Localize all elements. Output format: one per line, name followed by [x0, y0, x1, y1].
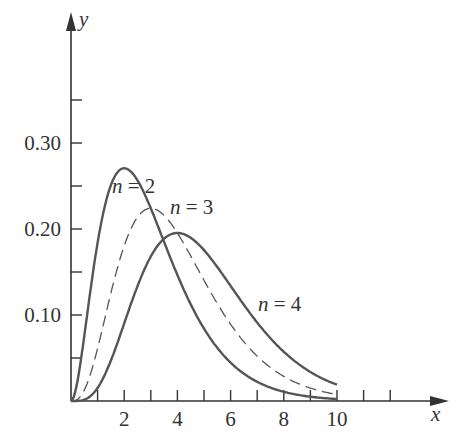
x-tick-label: 10: [327, 407, 348, 431]
y-axis-label: y: [77, 7, 89, 31]
labels: 0.100.200.30246810yxn = 2n = 3n = 4: [24, 7, 441, 431]
y-tick-label: 0.20: [24, 217, 61, 241]
y-tick-label: 0.30: [24, 131, 61, 155]
annotation-label: n = 4: [258, 292, 302, 316]
chart: 0.100.200.30246810yxn = 2n = 3n = 4: [0, 0, 463, 437]
x-axis-label: x: [430, 402, 441, 426]
annotation-label: n = 3: [170, 195, 213, 219]
y-axis-arrow-icon: [66, 12, 76, 31]
x-tick-label: 6: [225, 407, 236, 431]
annotation-label: n = 2: [112, 174, 155, 198]
y-tick-label: 0.10: [24, 303, 61, 327]
curve-n4: [71, 233, 337, 401]
x-tick-label: 8: [279, 407, 290, 431]
axes: [66, 12, 449, 406]
x-tick-label: 2: [119, 407, 130, 431]
x-tick-label: 4: [172, 407, 183, 431]
